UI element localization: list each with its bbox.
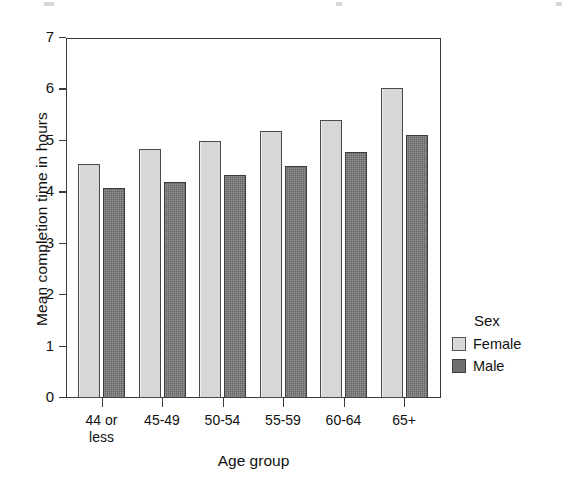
y-tick-mark — [59, 243, 66, 244]
y-tick-mark — [59, 37, 66, 38]
bar-group — [78, 38, 126, 398]
bar-female — [199, 141, 221, 398]
bar-male — [285, 166, 307, 398]
x-axis-title: Age group — [66, 452, 441, 470]
y-tick-label: 0 — [30, 388, 54, 405]
legend-entries: FemaleMale — [452, 336, 521, 374]
x-tick-mark — [344, 398, 345, 407]
bar-male — [103, 188, 125, 398]
y-tick-mark — [59, 346, 66, 347]
bar-group — [139, 38, 187, 398]
bar-chart: Mean completion time in hours 01234567 4… — [0, 0, 562, 490]
bar-male — [224, 175, 246, 398]
scan-artifact — [44, 2, 54, 6]
scan-artifact — [556, 2, 562, 6]
x-tick-mark — [283, 398, 284, 407]
legend-label: Male — [473, 358, 504, 374]
legend-title: Sex — [474, 312, 521, 329]
y-tick-label: 2 — [30, 285, 54, 302]
x-tick-mark — [223, 398, 224, 407]
x-tick-mark — [102, 398, 103, 407]
x-tick-label: 65+ — [367, 412, 441, 429]
y-tick-label: 3 — [30, 234, 54, 251]
x-tick-mark — [404, 398, 405, 407]
bar-male — [164, 182, 186, 398]
bar-group — [381, 38, 429, 398]
y-tick-label: 6 — [30, 79, 54, 96]
y-tick-label: 4 — [30, 182, 54, 199]
bar-group — [260, 38, 308, 398]
y-tick-label: 5 — [30, 131, 54, 148]
y-tick-mark — [59, 191, 66, 192]
bar-female — [260, 131, 282, 398]
legend-label: Female — [473, 336, 521, 352]
bar-female — [381, 88, 403, 398]
bar-female — [78, 164, 100, 398]
bar-group — [199, 38, 247, 398]
legend-entry-female: Female — [452, 336, 521, 352]
y-tick-mark — [59, 88, 66, 89]
legend-entry-male: Male — [452, 358, 521, 374]
y-tick-mark — [59, 397, 66, 398]
y-tick-label: 1 — [30, 337, 54, 354]
bar-female — [320, 120, 342, 398]
y-tick-mark — [59, 294, 66, 295]
bar-male — [406, 135, 428, 398]
bar-female — [139, 149, 161, 398]
legend-swatch-female — [452, 337, 466, 351]
bar-male — [345, 152, 367, 398]
bar-group — [320, 38, 368, 398]
y-tick-label: 7 — [30, 28, 54, 45]
legend-swatch-male — [452, 359, 466, 373]
x-tick-mark — [162, 398, 163, 407]
scan-artifact — [336, 2, 342, 6]
legend: Sex FemaleMale — [452, 312, 521, 380]
y-tick-mark — [59, 140, 66, 141]
y-axis-title: Mean completion time in hours — [33, 69, 51, 369]
bars-layer — [66, 38, 441, 398]
